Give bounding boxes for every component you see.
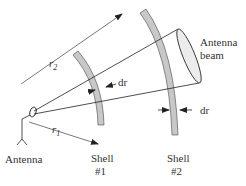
shell1-label-1: Shell [91,152,114,164]
r1-arrow [29,122,98,144]
antenna-icon [17,106,38,145]
antenna-label: Antenna [5,153,42,165]
radar-shell-diagram: r2 r1 dr dr Antenna beam Antenna Shell #… [0,0,246,186]
dr-shell1-label: dr [118,76,128,88]
dr-shell2-label: dr [200,104,210,116]
shell2-label-2: #2 [171,165,182,177]
r2-arrow [21,14,122,84]
antenna-beam-label-1: Antenna [200,36,237,48]
shell-2 [140,9,178,135]
shell-1 [73,51,104,125]
shell1-label-2: #1 [95,165,106,177]
r1-label: r1 [52,123,60,138]
shell2-label-1: Shell [167,152,190,164]
antenna-beam-label-2: beam [200,49,224,61]
